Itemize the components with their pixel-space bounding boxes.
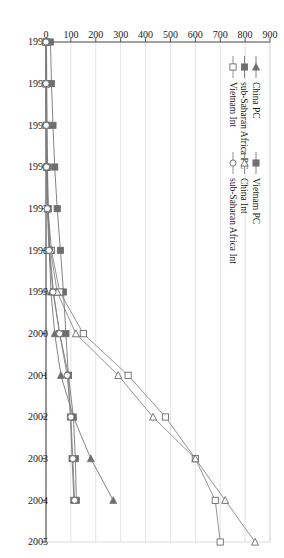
data-point <box>43 122 49 128</box>
legend-marker <box>253 63 260 70</box>
data-point <box>57 331 63 337</box>
year-tick-label: 2002 <box>28 411 48 422</box>
series-4 <box>43 39 79 504</box>
legend-marker <box>230 64 236 70</box>
data-point <box>64 372 70 378</box>
data-point <box>72 497 78 503</box>
value-tick-label: 700 <box>213 29 228 40</box>
year-tick-label: 1998 <box>28 245 48 256</box>
legend-label: sub-Saharan Africa Int <box>228 178 238 264</box>
legend-label: Vietnam PC <box>251 178 261 224</box>
legend-item[interactable]: Vietnam Int <box>228 56 238 127</box>
legend-label: Vietnam Int <box>228 82 238 127</box>
year-tick-label: 2000 <box>28 328 48 339</box>
data-point <box>87 455 94 462</box>
legend: China PCsub-Saharan Africa PCVietnam Int… <box>228 56 261 264</box>
data-point <box>43 164 49 170</box>
series-5 <box>43 38 259 545</box>
year-tick-label: 2003 <box>28 453 48 464</box>
year-axis-labels: 1993199419951996199719981999200020012002… <box>28 36 48 547</box>
chart-figure: 0100200300400500600700800900199319941995… <box>0 0 284 558</box>
value-tick-label: 300 <box>113 29 128 40</box>
data-point <box>217 539 223 545</box>
data-point <box>68 414 74 420</box>
legend-item[interactable]: sub-Saharan Africa Int <box>228 152 238 264</box>
value-tick-label: 100 <box>63 29 78 40</box>
data-point <box>72 330 79 337</box>
data-point <box>57 372 64 379</box>
data-point <box>44 206 50 212</box>
series-layer <box>43 38 259 545</box>
data-point <box>125 372 131 378</box>
value-tick-label: 500 <box>163 29 178 40</box>
year-tick-label: 1999 <box>28 286 48 297</box>
data-point <box>212 497 218 503</box>
series-line <box>46 42 113 500</box>
data-point <box>63 331 69 337</box>
value-tick-label: 900 <box>263 29 278 40</box>
legend-label: China PC <box>251 82 261 119</box>
legend-marker <box>230 160 236 166</box>
data-point <box>57 247 63 253</box>
legend-marker <box>253 160 259 166</box>
data-point <box>110 497 117 504</box>
legend-marker <box>241 64 247 70</box>
data-point <box>50 289 56 295</box>
data-point <box>43 81 49 87</box>
value-tick-label: 200 <box>88 29 103 40</box>
data-point <box>46 247 52 253</box>
data-point <box>43 39 49 45</box>
series-3 <box>43 39 223 545</box>
series-line <box>46 42 255 542</box>
data-point <box>52 164 58 170</box>
legend-label: China Int <box>239 178 249 214</box>
data-point <box>54 206 60 212</box>
legend-item[interactable]: Vietnam PC <box>251 152 261 224</box>
value-axis-labels: 0100200300400500600700800900 <box>44 29 278 42</box>
chart-canvas: 0100200300400500600700800900199319941995… <box>0 0 284 558</box>
year-tick-label: 2004 <box>28 495 48 506</box>
value-tick-label: 400 <box>138 29 153 40</box>
chart-root: 0100200300400500600700800900199319941995… <box>0 0 284 558</box>
legend-item[interactable]: China PC <box>251 56 261 119</box>
data-point <box>70 456 76 462</box>
data-point <box>50 122 56 128</box>
value-tick-label: 600 <box>188 29 203 40</box>
data-point <box>80 331 86 337</box>
series-6 <box>43 39 78 504</box>
data-point <box>222 497 229 504</box>
year-tick-label: 2005 <box>28 536 48 547</box>
value-tick-label: 800 <box>238 29 253 40</box>
year-tick-label: 2001 <box>28 370 48 381</box>
data-point <box>162 414 168 420</box>
